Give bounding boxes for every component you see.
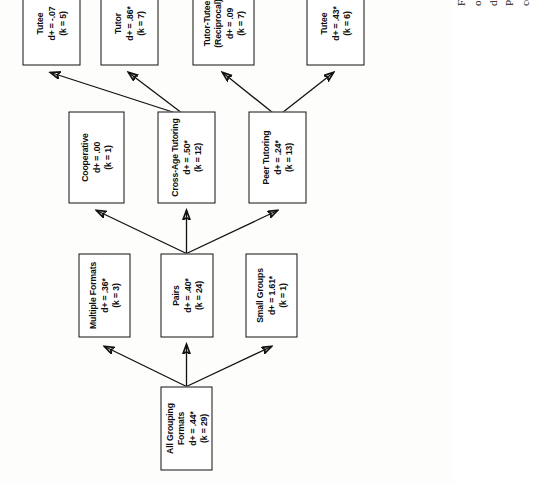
node-effect-size: d+ = .24*: [273, 140, 284, 174]
node-pairs[interactable]: Pairs d+ = .40* (k = 24): [161, 254, 214, 338]
node-effect-size: d+ = -.07: [47, 7, 58, 41]
node-label: Tutee: [35, 13, 46, 35]
node-cooperative[interactable]: Cooperative d+ = .00 (k = 1): [69, 112, 125, 204]
node-sample-count: (k = 7): [136, 11, 147, 35]
figure-caption-rotation-wrapper: FIG. 4.1.Aggregations of effect sizes in…: [453, 0, 531, 6]
node-label: Cross-Age Tutoring: [170, 118, 181, 196]
node-sample-count: (k = 5): [58, 11, 69, 35]
node-sample-count: (k = 29): [198, 414, 209, 443]
node-label: All Grouping Formats: [164, 389, 186, 469]
edge-root-to-multiple-formats: [105, 347, 187, 387]
node-peer-tutoring[interactable]: Peer Tutoring d+ = .24* (k = 13): [249, 112, 307, 204]
node-all-grouping-formats[interactable]: All Grouping Formats d+ = .44* (k = 29): [161, 387, 213, 471]
edge-peer-tutoring-to-tutor-tutee: [223, 73, 278, 117]
node-effect-size: d+ = .40*: [182, 278, 193, 312]
edge-pairs-to-cooperative: [97, 211, 187, 254]
node-small-groups[interactable]: Small Groups d+ = 1.61* (k = 1): [246, 254, 298, 338]
node-effect-size: d+ = .00: [92, 142, 103, 173]
node-sample-count: (k = 1): [278, 283, 289, 307]
node-label: Peer Tutoring: [261, 131, 272, 185]
node-effect-size: d+ = .86*: [125, 6, 136, 40]
tree-diagram: All Grouping Formats d+ = .44* (k = 29) …: [1, 0, 373, 483]
node-tutee-peer[interactable]: Tutee d+ = .43* (k = 6): [307, 0, 365, 66]
edge-cross-age-to-tutor: [129, 73, 187, 117]
node-sample-count: (k = 24): [193, 281, 204, 310]
node-sample-count: (k = 1): [103, 145, 114, 169]
node-label: Tutor-Tutee (Reciprocal): [201, 0, 223, 48]
node-label: Pairs: [170, 285, 181, 306]
figure-number: FIG. 4.1.: [455, 0, 467, 6]
node-effect-size: d+ = 1.61*: [267, 276, 278, 315]
edge-peer-tutoring-to-tutee: [278, 73, 334, 117]
node-tutee-cross-age[interactable]: Tutee d+ = -.07 (k = 5): [23, 0, 81, 66]
node-multiple-formats[interactable]: Multiple Formats d+ = .36* (k = 3): [79, 254, 131, 338]
figure-caption: FIG. 4.1.Aggregations of effect sizes in…: [453, 0, 533, 6]
node-effect-size: d+ = .36*: [100, 278, 111, 312]
node-sample-count: (k = 3): [111, 283, 122, 307]
node-sample-count: (k = 7): [235, 11, 246, 35]
figure-rotation-wrapper: All Grouping Formats d+ = .44* (k = 29) …: [1, 0, 373, 483]
node-tutor-tutee-reciprocal[interactable]: Tutor-Tutee (Reciprocal) d+ = .09 (k = 7…: [193, 0, 255, 66]
node-sample-count: (k = 6): [342, 11, 353, 35]
node-sample-count: (k = 12): [193, 143, 204, 172]
node-sample-count: (k = 13): [284, 143, 295, 172]
node-label: Small Groups: [255, 268, 266, 323]
node-label: Tutee: [319, 13, 330, 35]
node-label: Tutor: [113, 13, 124, 34]
edge-root-to-small-groups: [187, 347, 272, 387]
node-label: Cooperative: [80, 133, 91, 182]
node-effect-size: d+ = .43*: [331, 6, 342, 40]
node-tutor-cross-age[interactable]: Tutor d+ = .86* (k = 7): [101, 0, 159, 66]
edge-pairs-to-peer-tutoring: [187, 211, 278, 254]
node-effect-size: d+ = .09: [224, 8, 235, 39]
node-label: Multiple Formats: [88, 262, 99, 329]
node-cross-age-tutoring[interactable]: Cross-Age Tutoring d+ = .50* (k = 12): [158, 112, 216, 204]
node-effect-size: d+ = .50*: [182, 140, 193, 174]
node-effect-size: d+ = .44*: [187, 411, 198, 445]
edge-cross-age-to-tutee: [51, 73, 187, 117]
